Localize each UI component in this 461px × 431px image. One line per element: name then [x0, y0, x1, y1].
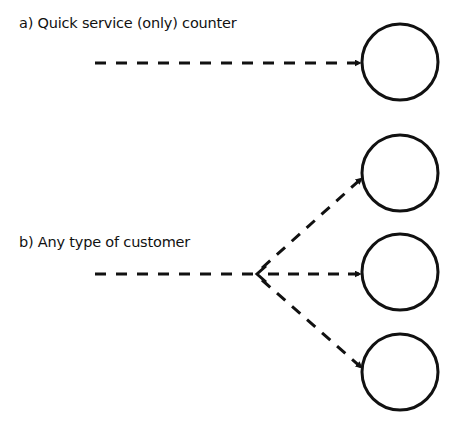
queue-diagram: a) Quick service (only) counter b) Any t… [0, 0, 461, 431]
server-circle-1 [362, 135, 438, 211]
server-circle-3 [362, 334, 438, 410]
section-b-flow [95, 135, 438, 410]
branch-arrow-upper [262, 178, 362, 268]
branch-arrow-lower [262, 280, 362, 368]
diagram-graphics [0, 0, 461, 431]
section-a-flow [95, 24, 438, 100]
server-circle-quick-service [362, 24, 438, 100]
server-circle-2 [362, 234, 438, 310]
branch-split-icon [257, 266, 266, 282]
